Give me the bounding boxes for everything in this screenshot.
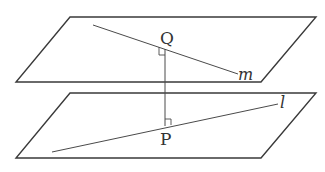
diagram-canvas: Q P m l: [0, 0, 325, 172]
line-label-l: l: [280, 93, 285, 112]
right-angle-mark-p: [165, 119, 171, 125]
diagram-figure: Q P m l: [0, 0, 325, 172]
line-label-m: m: [238, 65, 253, 84]
point-label-p: P: [160, 129, 171, 149]
point-label-q: Q: [160, 28, 174, 48]
